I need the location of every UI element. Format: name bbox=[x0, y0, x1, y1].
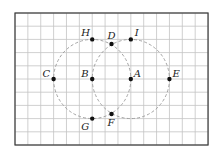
point-label-f: F bbox=[107, 117, 116, 128]
point-label-i: I bbox=[134, 27, 140, 38]
point-label-b: B bbox=[80, 68, 88, 79]
point-c bbox=[51, 77, 55, 81]
point-d bbox=[109, 42, 113, 46]
point-label-h: H bbox=[80, 27, 90, 38]
point-b bbox=[90, 77, 94, 81]
point-i bbox=[129, 37, 133, 41]
point-label-c: C bbox=[43, 68, 51, 79]
point-h bbox=[90, 37, 94, 41]
point-label-a: A bbox=[133, 68, 141, 79]
point-e bbox=[167, 77, 171, 81]
point-label-d: D bbox=[107, 30, 116, 41]
point-label-e: E bbox=[171, 68, 180, 79]
point-label-g: G bbox=[81, 121, 89, 132]
point-g bbox=[90, 116, 94, 120]
point-a bbox=[129, 77, 133, 81]
point-f bbox=[109, 112, 113, 116]
labeled-points: ABCDEFGHI bbox=[43, 27, 181, 131]
geometry-diagram: ABCDEFGHI bbox=[0, 0, 213, 153]
